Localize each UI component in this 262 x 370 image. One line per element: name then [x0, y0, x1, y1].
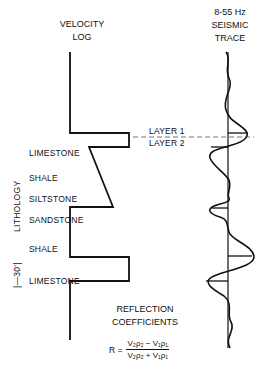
lithology-label-limestone-2: LIMESTONE: [29, 276, 80, 286]
velocity-log-curve: [70, 52, 129, 340]
scale-bar-label: |—30'|: [12, 262, 22, 288]
lithology-label-shale-2: SHALE: [29, 244, 58, 254]
lithology-label-siltstone: SILTSTONE: [29, 194, 77, 204]
formula-numerator: V₂ρ₂ − V₁ρ₁: [126, 339, 169, 350]
lithology-axis-label: LITHOLOGY: [12, 181, 22, 232]
seismic-wiggle-trace: [208, 52, 254, 348]
reflection-coefficients-title: REFLECTION COEFFICIENTS: [105, 303, 185, 329]
reflection-title-line1: REFLECTION: [105, 303, 185, 316]
formula-fraction: V₂ρ₂ − V₁ρ₁ V₂ρ₂ + V₁ρ₁: [126, 339, 169, 360]
lithology-label-sandstone: SANDSTONE: [29, 215, 84, 225]
lithology-label-shale-1: SHALE: [29, 173, 58, 183]
layer-2-label: LAYER 2: [149, 138, 185, 148]
formula-lhs: R =: [109, 345, 122, 355]
layer-1-label: LAYER 1: [149, 126, 185, 136]
formula-denominator: V₂ρ₂ + V₁ρ₁: [126, 350, 169, 360]
reflection-formula: R = V₂ρ₂ − V₁ρ₁ V₂ρ₂ + V₁ρ₁: [109, 339, 169, 360]
lithology-label-limestone-1: LIMESTONE: [29, 148, 80, 158]
reflection-title-line2: COEFFICIENTS: [105, 316, 185, 329]
